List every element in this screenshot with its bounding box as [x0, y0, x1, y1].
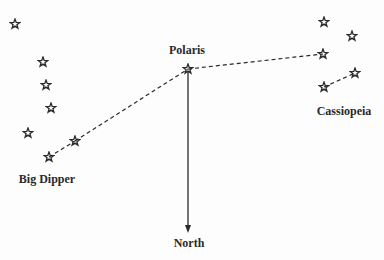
polaris-label: Polaris — [169, 43, 205, 58]
arrowhead-icon — [185, 225, 191, 233]
star-icon — [319, 17, 329, 26]
north-arrow — [185, 72, 191, 233]
north-label: North — [174, 236, 205, 251]
diagram-graphics — [0, 0, 384, 260]
star-icon — [10, 19, 20, 28]
big-dipper-label: Big Dipper — [19, 172, 75, 187]
big-dipper-pointer-segment — [49, 141, 75, 157]
star-icon — [318, 49, 328, 58]
big-dipper-to-polaris-line — [75, 69, 188, 141]
star-icon — [38, 57, 48, 66]
star-icon — [350, 68, 360, 77]
pointer-lines — [49, 54, 355, 157]
polaris-to-cassiopeia-line — [188, 54, 323, 69]
star-icon — [41, 80, 51, 89]
star-finder-diagram: Polaris Big Dipper Cassiopeia North — [0, 0, 384, 260]
star-icon — [347, 31, 357, 40]
cassiopeia-label: Cassiopeia — [317, 104, 372, 119]
star-icon — [23, 128, 33, 137]
star-icon — [46, 103, 56, 112]
big-dipper-stars — [10, 19, 80, 161]
